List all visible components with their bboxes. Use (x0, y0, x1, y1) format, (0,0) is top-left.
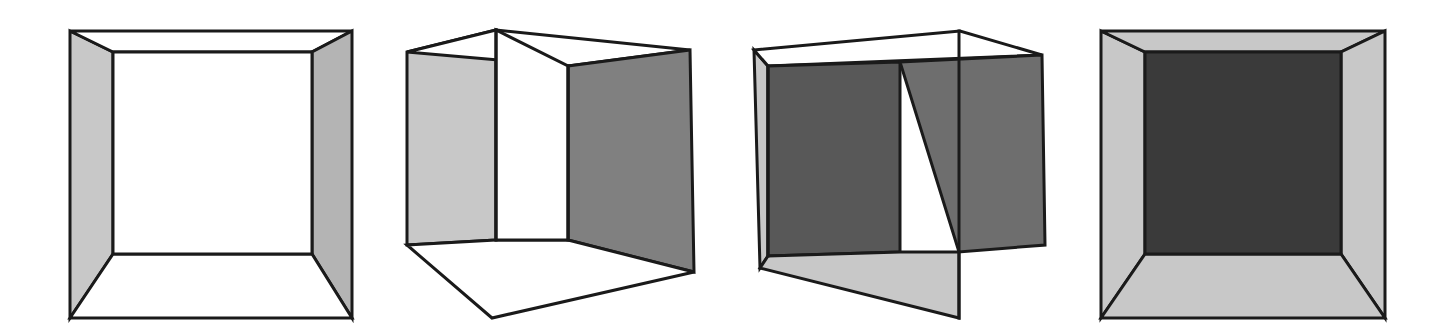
cube-2-right-wall (568, 50, 694, 272)
cube-4-back-face (1145, 52, 1341, 254)
cube-4[interactable] (1101, 31, 1385, 318)
cube-2-back-face (496, 30, 568, 240)
cube-1-bottom-wall (70, 254, 352, 318)
cube-1[interactable] (70, 31, 352, 318)
cube-4-top-wall (1101, 31, 1385, 52)
cube-4-bottom-wall (1101, 254, 1385, 318)
cube-2-left-wall (407, 30, 496, 245)
cube-1-back-face (113, 52, 312, 254)
cube-2[interactable] (407, 30, 694, 318)
cube-1-top-wall (70, 31, 352, 52)
figure-root (0, 0, 1443, 336)
cube-3-back-face (768, 62, 900, 256)
cube-figure-svg (0, 0, 1443, 336)
